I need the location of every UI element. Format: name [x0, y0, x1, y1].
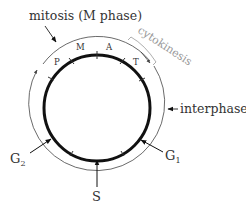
cytokinesis-label: cytokinesis [135, 24, 194, 69]
cell-cycle-ring [44, 55, 150, 161]
stage-anaphase: A [105, 42, 113, 52]
cell-cycle-diagram: mitosis (M phase) cytokinesis interphase… [0, 0, 246, 209]
stage-prophase: P [54, 57, 60, 67]
g2-label: G2 [10, 151, 25, 168]
mitosis-label: mitosis (M phase) [29, 8, 142, 23]
stage-telophase: T [133, 57, 139, 67]
g1-label: G1 [165, 148, 180, 165]
cytokinesis-arrow [141, 52, 150, 63]
interphase-label: interphase [180, 101, 246, 116]
s-label: S [92, 189, 101, 204]
mitosis-pointer-arrow [45, 26, 56, 42]
stage-metaphase: M [76, 42, 85, 52]
